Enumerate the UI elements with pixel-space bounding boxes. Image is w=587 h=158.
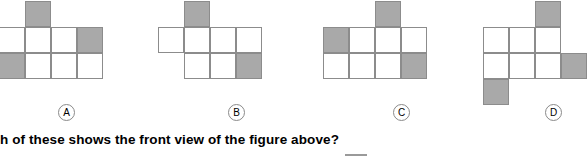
option-a-cell-r1-c3	[77, 27, 103, 53]
option-d-cell-r1-c1	[509, 27, 535, 53]
option-b-cell-r2-c3	[236, 53, 262, 79]
option-label-d[interactable]: D	[545, 104, 562, 121]
option-c-cell-r2-c1	[349, 53, 375, 79]
option-b-cell-r1-c0	[158, 27, 184, 53]
option-label-b[interactable]: B	[228, 104, 245, 121]
option-a-cell-r2-c3	[77, 53, 103, 79]
question-prompt: h of these shows the front view of the f…	[0, 132, 339, 147]
option-a-cell-r1-c2	[51, 27, 77, 53]
option-d-cell-r2-c0	[483, 53, 509, 79]
option-d-cell-r2-c2	[535, 53, 561, 79]
option-label-a[interactable]: A	[58, 104, 75, 121]
option-a-cell-r1-c1	[25, 27, 51, 53]
option-c-cell-r1-c0	[323, 27, 349, 53]
option-d-cell-r1-c2	[535, 27, 561, 53]
option-c-cell-r1-c2	[375, 27, 401, 53]
option-d-cell-r2-c3	[561, 53, 587, 79]
option-d-cell-r2-c1	[509, 53, 535, 79]
option-b-cell-r1-c2	[210, 27, 236, 53]
option-a-cell-r0-c1	[25, 1, 51, 27]
option-b-cell-r2-c2	[210, 53, 236, 79]
option-d-cell-r3-c0	[483, 79, 509, 105]
option-d-cell-r1-c0	[483, 27, 509, 53]
option-b-cell-r0-c1	[184, 1, 210, 27]
answer-blank-rule	[345, 154, 367, 156]
option-c-cell-r2-c0	[323, 53, 349, 79]
option-c-cell-r2-c2	[375, 53, 401, 79]
option-c-cell-r1-c1	[349, 27, 375, 53]
option-a-cell-r2-c0	[0, 53, 25, 79]
option-b-cell-r1-c3	[236, 27, 262, 53]
option-a-cell-r1-c0	[0, 27, 25, 53]
option-label-c[interactable]: C	[393, 104, 410, 121]
option-c-cell-r0-c2	[375, 1, 401, 27]
option-a-cell-r2-c1	[25, 53, 51, 79]
option-c-cell-r1-c3	[401, 27, 427, 53]
option-b-cell-r2-c1	[184, 53, 210, 79]
option-b-cell-r1-c1	[184, 27, 210, 53]
option-a-cell-r2-c2	[51, 53, 77, 79]
option-c-cell-r2-c3	[401, 53, 427, 79]
option-d-cell-r0-c2	[535, 1, 561, 27]
